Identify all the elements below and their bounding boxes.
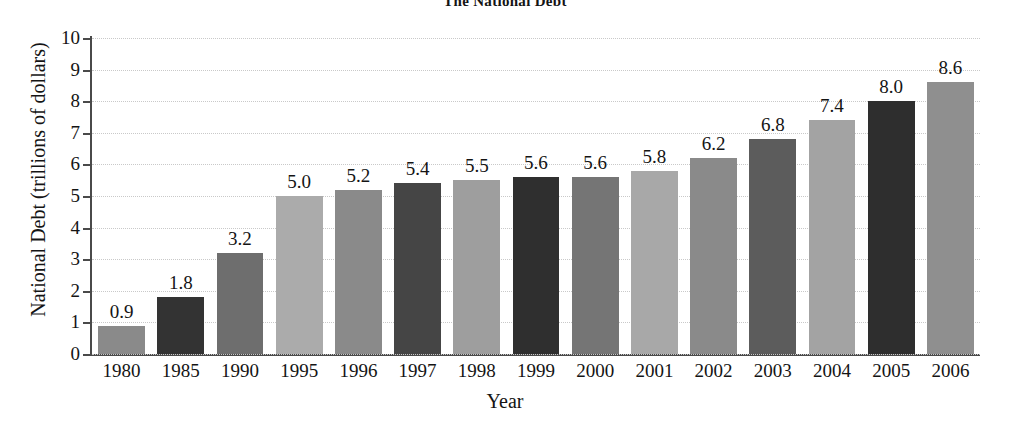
bar-value-label: 3.2 (217, 229, 264, 248)
x-axis-tick-label: 1990 (211, 360, 270, 381)
y-axis-tick-mark (83, 322, 92, 324)
x-axis-tick-label: 2002 (684, 360, 743, 381)
bar (631, 171, 678, 354)
y-axis-tick-mark (83, 101, 92, 103)
y-axis-tick-label: 6 (52, 154, 80, 173)
y-axis-tick-label: 9 (52, 60, 80, 79)
bar (276, 196, 323, 354)
bar-value-label: 5.4 (394, 159, 441, 178)
x-axis-tick-label: 1996 (329, 360, 388, 381)
bar-value-label: 1.8 (157, 273, 204, 292)
bar (572, 177, 619, 354)
y-axis-tick-label: 5 (52, 186, 80, 205)
y-axis-tick-mark (83, 38, 92, 40)
x-axis-title: Year (0, 390, 1010, 413)
bar-value-label: 5.6 (513, 153, 560, 172)
y-axis-tick-mark (83, 164, 92, 166)
y-axis-tick-mark (83, 228, 92, 230)
x-axis-tick-label: 2004 (803, 360, 862, 381)
x-axis-tick-label: 1995 (270, 360, 329, 381)
y-axis-tick-mark (83, 354, 92, 356)
y-axis-tick-mark (83, 133, 92, 135)
bar-value-label: 5.2 (335, 166, 382, 185)
bar-value-label: 5.8 (631, 147, 678, 166)
chart-title: The National Debt (0, 0, 1010, 10)
x-axis-tick-label: 2005 (862, 360, 921, 381)
y-axis-tick-label: 10 (52, 28, 80, 47)
bar (513, 177, 560, 354)
y-axis-tick-mark (83, 259, 92, 261)
gridline (92, 38, 980, 39)
bar (335, 190, 382, 354)
bar-value-label: 6.8 (749, 115, 796, 134)
bar-value-label: 7.4 (809, 96, 856, 115)
y-axis-tick-mark (83, 70, 92, 72)
plot-area: 0.91.83.25.05.25.45.55.65.65.86.26.87.48… (92, 38, 980, 354)
x-axis-tick-label: 1998 (447, 360, 506, 381)
bar (868, 101, 915, 354)
bar (927, 82, 974, 354)
y-axis-tick-label: 2 (52, 281, 80, 300)
x-axis-tick-label: 1985 (151, 360, 210, 381)
x-axis-tick-label: 1997 (388, 360, 447, 381)
bar-value-label: 5.6 (572, 153, 619, 172)
bar-value-label: 5.0 (276, 172, 323, 191)
bar (217, 253, 264, 354)
y-axis-tick-mark (83, 196, 92, 198)
y-axis-tick-label: 1 (52, 312, 80, 331)
y-axis-tick-label: 7 (52, 123, 80, 142)
x-axis-tick-label: 1980 (92, 360, 151, 381)
y-axis-tick-label: 3 (52, 249, 80, 268)
bar (749, 139, 796, 354)
bar (809, 120, 856, 354)
bar (453, 180, 500, 354)
bar-value-label: 8.0 (868, 77, 915, 96)
bar-value-label: 6.2 (690, 134, 737, 153)
gridline (92, 354, 980, 355)
x-axis-tick-label: 2003 (743, 360, 802, 381)
bar-value-label: 5.5 (453, 156, 500, 175)
y-axis-tick-label: 4 (52, 218, 80, 237)
y-axis-tick-label: 8 (52, 91, 80, 110)
x-axis-tick-label: 2000 (566, 360, 625, 381)
bar-value-label: 0.9 (98, 302, 145, 321)
y-axis-tick-labels: 109876543210 (44, 0, 80, 429)
bar (98, 326, 145, 354)
bar-value-label: 8.6 (927, 58, 974, 77)
y-axis-tick-mark (83, 291, 92, 293)
x-axis-tick-label: 2001 (625, 360, 684, 381)
bar (394, 183, 441, 354)
y-axis-tick-label: 0 (52, 344, 80, 363)
bar (157, 297, 204, 354)
x-axis-tick-label: 2006 (921, 360, 980, 381)
bar (690, 158, 737, 354)
x-axis-tick-label: 1999 (507, 360, 566, 381)
gridline (92, 70, 980, 71)
